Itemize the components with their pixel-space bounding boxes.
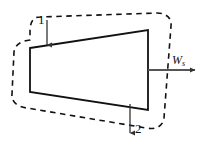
- shaft-work-symbol: W: [172, 53, 182, 67]
- figure-canvas: 1 2 Ws: [0, 0, 201, 152]
- inlet-label: 1: [38, 13, 45, 26]
- control-volume-diagram: [0, 0, 201, 152]
- device-body-trapezoid: [30, 30, 148, 110]
- shaft-work-subscript: s: [182, 59, 185, 68]
- outlet-label: 2: [135, 122, 142, 135]
- shaft-work-label: Ws: [172, 54, 185, 66]
